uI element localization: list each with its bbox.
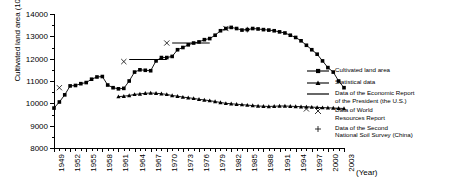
plot-area: 800090001000011000120001300014000 194919… [54,14,344,148]
legend-item: Data of the SecondNational Soil Survey (… [305,124,450,139]
x-tick-label: 1955 [89,154,98,172]
legend-key-line-triangle-icon [305,78,333,87]
annotation-marker-x [121,59,126,64]
y-tick-label: 14000 [26,10,48,19]
data-point-square [68,84,72,88]
x-tick-label: 1976 [202,154,211,172]
y-tick-label: 12000 [26,54,48,63]
data-point-square [235,27,239,31]
annotation-marker-x [164,40,169,45]
data-point-square [95,75,99,79]
x-tick-label: 1967 [154,154,163,172]
annotation-marker-plus [245,27,251,33]
x-tick-label: 1964 [138,154,147,172]
legend-key-line-plain-icon [305,89,333,98]
legend-label: Cultivated land area [333,66,390,73]
data-point-square [181,46,185,50]
x-tick-label: 1997 [315,154,324,172]
legend-item: Statistical data [305,78,450,87]
y-tick-label: 10000 [26,99,48,108]
x-tick-label: 1952 [73,154,82,172]
x-tick-label: 1982 [234,154,243,172]
data-point-square [213,33,217,37]
legend-key-marker-x-icon [305,106,333,115]
legend-label: Statistical data [333,78,375,85]
data-point-square [79,82,83,86]
x-tick-label: 1994 [299,154,308,172]
x-tick-label: 1958 [105,154,114,172]
data-point-square [117,87,121,91]
data-point-square [267,28,271,32]
data-point-square [149,69,153,73]
data-series-layer [54,14,346,150]
data-point-square [90,77,94,81]
x-tick-label: 2003 [347,154,356,172]
data-point-square [58,100,62,104]
legend-label: Data of WorldResources Report [333,106,385,121]
x-tick-label: 1973 [186,154,195,172]
data-point-square [170,55,174,59]
data-point-square [208,37,212,41]
data-point-square [63,93,67,97]
legend-key-marker-plus-icon [305,124,333,133]
data-point-square [262,28,266,32]
y-axis-title: Cultivated land area (10000 hectares) [13,0,22,92]
legend-item: Data of WorldResources Report [305,106,450,121]
y-tick-label: 13000 [26,32,48,41]
data-point-square [84,81,88,85]
chart-legend: Cultivated land areaStatistical dataData… [305,66,450,141]
x-tick-label: 1988 [266,154,275,172]
data-point-square [144,68,148,72]
legend-label: Data of the SecondNational Soil Survey (… [333,124,413,139]
x-tick-label: 1970 [170,154,179,172]
data-point-square [133,70,137,74]
data-point-square [299,39,303,43]
data-point-square [219,29,223,33]
data-point-square [289,33,293,37]
x-tick-label: 1991 [283,154,292,172]
y-tick-label: 11000 [26,77,48,86]
data-point-square [294,36,298,40]
data-point-square [251,27,255,31]
data-point-square [203,38,207,42]
legend-key-line-square-icon [305,66,333,75]
data-point-square [127,79,131,83]
data-point-square [111,86,115,90]
annotation-marker-x [57,85,62,90]
data-point-square [310,48,314,52]
y-tick-label: 8000 [30,144,48,153]
data-point-square [272,29,276,33]
x-tick-label: 2000 [331,154,340,172]
x-tick-label: 1949 [57,154,66,172]
y-tick-label: 9000 [30,121,48,130]
data-point-square [122,87,126,91]
data-point-square [315,52,319,56]
data-point-square [52,106,56,110]
data-point-square [160,56,164,60]
legend-label: Data of the Economic Reportof the Presid… [333,89,414,104]
data-point-square [321,59,325,63]
x-axis-title: (Year) [356,168,378,177]
data-point-square [101,75,105,79]
data-point-square [305,43,309,47]
legend-item: Cultivated land area [305,66,450,75]
data-point-square [176,48,180,52]
data-point-square [165,56,169,60]
x-tick-label: 1985 [250,154,259,172]
data-point-square [283,31,287,35]
data-point-square [256,27,260,31]
data-point-square [74,84,78,88]
legend-item: Data of the Economic Reportof the Presid… [305,89,450,104]
data-point-square [240,28,244,32]
data-point-square [106,83,110,87]
data-point-square [138,68,142,72]
x-tick-label: 1979 [218,154,227,172]
x-tick-label: 1961 [121,154,130,172]
chart-figure: Cultivated land area (10000 hectares) 80… [0,0,450,196]
data-point-square [278,30,282,34]
data-point-square [229,26,233,30]
